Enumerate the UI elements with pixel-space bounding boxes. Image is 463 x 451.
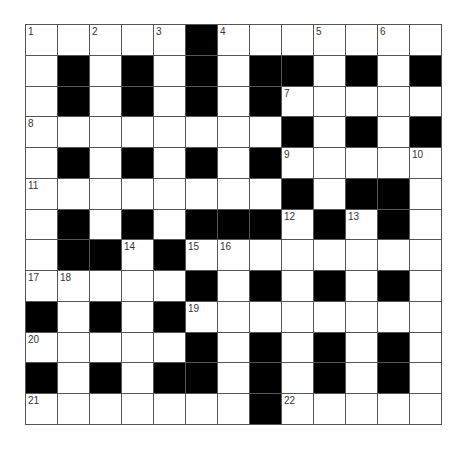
answer-cell[interactable] bbox=[250, 240, 281, 270]
answer-cell[interactable] bbox=[26, 240, 57, 270]
answer-cell[interactable] bbox=[314, 302, 345, 332]
answer-cell[interactable] bbox=[218, 302, 249, 332]
answer-cell[interactable] bbox=[122, 394, 153, 424]
answer-cell[interactable] bbox=[378, 148, 409, 178]
answer-cell[interactable] bbox=[186, 117, 217, 147]
answer-cell[interactable] bbox=[282, 302, 313, 332]
answer-cell[interactable] bbox=[410, 179, 441, 209]
answer-cell[interactable] bbox=[378, 117, 409, 147]
answer-cell[interactable] bbox=[90, 179, 121, 209]
answer-cell[interactable] bbox=[250, 117, 281, 147]
answer-cell[interactable] bbox=[218, 333, 249, 363]
answer-cell[interactable]: 18 bbox=[58, 271, 89, 301]
answer-cell[interactable]: 1 bbox=[26, 25, 57, 55]
answer-cell[interactable] bbox=[186, 394, 217, 424]
answer-cell[interactable] bbox=[410, 210, 441, 240]
answer-cell[interactable] bbox=[410, 394, 441, 424]
answer-cell[interactable]: 8 bbox=[26, 117, 57, 147]
answer-cell[interactable] bbox=[314, 240, 345, 270]
answer-cell[interactable] bbox=[346, 363, 377, 393]
answer-cell[interactable] bbox=[58, 25, 89, 55]
answer-cell[interactable] bbox=[122, 302, 153, 332]
answer-cell[interactable]: 22 bbox=[282, 394, 313, 424]
answer-cell[interactable] bbox=[346, 302, 377, 332]
answer-cell[interactable] bbox=[282, 333, 313, 363]
answer-cell[interactable] bbox=[282, 271, 313, 301]
answer-cell[interactable] bbox=[122, 179, 153, 209]
answer-cell[interactable] bbox=[378, 394, 409, 424]
answer-cell[interactable] bbox=[378, 87, 409, 117]
answer-cell[interactable] bbox=[154, 210, 185, 240]
answer-cell[interactable] bbox=[154, 117, 185, 147]
answer-cell[interactable]: 20 bbox=[26, 333, 57, 363]
answer-cell[interactable]: 5 bbox=[314, 25, 345, 55]
answer-cell[interactable] bbox=[250, 302, 281, 332]
answer-cell[interactable] bbox=[58, 333, 89, 363]
answer-cell[interactable]: 9 bbox=[282, 148, 313, 178]
answer-cell[interactable] bbox=[378, 302, 409, 332]
answer-cell[interactable] bbox=[282, 25, 313, 55]
answer-cell[interactable] bbox=[218, 87, 249, 117]
answer-cell[interactable] bbox=[410, 363, 441, 393]
answer-cell[interactable] bbox=[346, 25, 377, 55]
answer-cell[interactable]: 7 bbox=[282, 87, 313, 117]
answer-cell[interactable] bbox=[250, 179, 281, 209]
answer-cell[interactable] bbox=[410, 271, 441, 301]
answer-cell[interactable] bbox=[58, 363, 89, 393]
answer-cell[interactable]: 11 bbox=[26, 179, 57, 209]
answer-cell[interactable]: 15 bbox=[186, 240, 217, 270]
answer-cell[interactable] bbox=[218, 271, 249, 301]
answer-cell[interactable] bbox=[346, 333, 377, 363]
answer-cell[interactable] bbox=[218, 117, 249, 147]
answer-cell[interactable] bbox=[122, 363, 153, 393]
answer-cell[interactable]: 17 bbox=[26, 271, 57, 301]
answer-cell[interactable]: 21 bbox=[26, 394, 57, 424]
answer-cell[interactable] bbox=[90, 210, 121, 240]
answer-cell[interactable] bbox=[90, 333, 121, 363]
answer-cell[interactable] bbox=[410, 25, 441, 55]
answer-cell[interactable] bbox=[218, 179, 249, 209]
answer-cell[interactable]: 2 bbox=[90, 25, 121, 55]
answer-cell[interactable] bbox=[90, 87, 121, 117]
answer-cell[interactable] bbox=[90, 271, 121, 301]
answer-cell[interactable]: 19 bbox=[186, 302, 217, 332]
answer-cell[interactable] bbox=[122, 25, 153, 55]
answer-cell[interactable] bbox=[122, 117, 153, 147]
answer-cell[interactable]: 16 bbox=[218, 240, 249, 270]
answer-cell[interactable] bbox=[154, 148, 185, 178]
answer-cell[interactable] bbox=[154, 394, 185, 424]
answer-cell[interactable] bbox=[90, 117, 121, 147]
answer-cell[interactable] bbox=[410, 302, 441, 332]
answer-cell[interactable] bbox=[154, 87, 185, 117]
answer-cell[interactable] bbox=[378, 56, 409, 86]
answer-cell[interactable]: 4 bbox=[218, 25, 249, 55]
answer-cell[interactable] bbox=[410, 87, 441, 117]
answer-cell[interactable] bbox=[58, 117, 89, 147]
answer-cell[interactable] bbox=[346, 394, 377, 424]
answer-cell[interactable] bbox=[250, 25, 281, 55]
answer-cell[interactable] bbox=[282, 363, 313, 393]
answer-cell[interactable] bbox=[218, 394, 249, 424]
answer-cell[interactable] bbox=[378, 240, 409, 270]
answer-cell[interactable] bbox=[154, 271, 185, 301]
answer-cell[interactable] bbox=[314, 179, 345, 209]
answer-cell[interactable] bbox=[154, 179, 185, 209]
answer-cell[interactable]: 10 bbox=[410, 148, 441, 178]
answer-cell[interactable]: 12 bbox=[282, 210, 313, 240]
answer-cell[interactable] bbox=[282, 240, 313, 270]
answer-cell[interactable] bbox=[346, 271, 377, 301]
answer-cell[interactable] bbox=[90, 394, 121, 424]
answer-cell[interactable] bbox=[26, 148, 57, 178]
answer-cell[interactable] bbox=[26, 56, 57, 86]
answer-cell[interactable] bbox=[218, 148, 249, 178]
answer-cell[interactable] bbox=[90, 148, 121, 178]
answer-cell[interactable] bbox=[26, 210, 57, 240]
answer-cell[interactable] bbox=[122, 333, 153, 363]
answer-cell[interactable] bbox=[314, 148, 345, 178]
answer-cell[interactable] bbox=[346, 240, 377, 270]
answer-cell[interactable] bbox=[314, 117, 345, 147]
answer-cell[interactable] bbox=[90, 56, 121, 86]
answer-cell[interactable] bbox=[314, 87, 345, 117]
answer-cell[interactable] bbox=[58, 394, 89, 424]
answer-cell[interactable] bbox=[346, 87, 377, 117]
